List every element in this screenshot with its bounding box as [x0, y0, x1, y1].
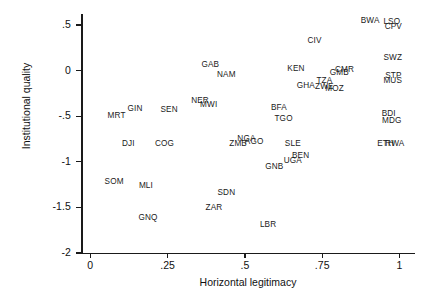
- x-tick-mark: [399, 253, 400, 258]
- data-point-label: MDG: [382, 116, 402, 125]
- data-point-label: TGO: [274, 113, 292, 122]
- data-point-label: BWA: [361, 15, 380, 24]
- data-point-label: SLE: [285, 138, 301, 147]
- data-point-label: SOM: [105, 177, 124, 186]
- y-tick-label: -2: [37, 246, 71, 258]
- data-point-label: RWA: [385, 138, 404, 147]
- x-tick-mark: [322, 253, 323, 258]
- y-axis-title: Institutional quality: [20, 26, 32, 186]
- scatter-plot-figure: Institutional quality .50-.5-1-1.5-2 0.2…: [0, 0, 436, 300]
- y-tick-label: -1.5: [37, 200, 71, 212]
- x-tick-label: 1: [380, 259, 420, 271]
- data-point-label: SDN: [217, 188, 235, 197]
- x-tick-mark: [90, 253, 91, 258]
- data-point-label: UGA: [284, 156, 302, 165]
- data-point-label: MRT: [108, 111, 126, 120]
- data-point-label: GHA: [297, 81, 315, 90]
- data-point-label: AGO: [245, 137, 264, 146]
- data-point-label: SWZ: [383, 52, 402, 61]
- data-point-label: MLI: [139, 180, 153, 189]
- data-point-label: ZMB: [229, 138, 247, 147]
- data-point-label: GAB: [201, 59, 219, 68]
- y-tick-label: 0: [37, 64, 71, 76]
- x-tick-mark: [244, 253, 245, 258]
- data-point-label: GNB: [265, 162, 283, 171]
- x-tick-label: .5: [225, 259, 265, 271]
- x-axis-title: Horizontal legitimacy: [81, 276, 415, 288]
- y-tick-label: -.5: [37, 109, 71, 121]
- data-point-label: GMB: [330, 67, 349, 76]
- data-point-label: COG: [155, 138, 174, 147]
- data-point-label: MWI: [200, 99, 217, 108]
- x-tick-mark: [167, 253, 168, 258]
- data-point-label: CPV: [385, 21, 402, 30]
- data-point-label: GIN: [128, 104, 143, 113]
- x-tick-label: .25: [148, 259, 188, 271]
- data-point-label: MUS: [383, 76, 402, 85]
- data-point-label: DJI: [122, 138, 135, 147]
- x-tick-label: .75: [302, 259, 342, 271]
- data-point-label: MOZ: [325, 83, 344, 92]
- data-point-label: SEN: [160, 104, 177, 113]
- data-point-label: ZAR: [206, 203, 223, 212]
- data-point-label: LBR: [260, 219, 276, 228]
- data-point-label: BFA: [271, 102, 287, 111]
- y-tick-label: .5: [37, 18, 71, 30]
- data-point-label: CIV: [307, 35, 321, 44]
- x-tick-label: 0: [70, 259, 110, 271]
- y-tick-label: -1: [37, 155, 71, 167]
- data-point-label: KEN: [287, 63, 304, 72]
- data-point-label: GNQ: [139, 212, 158, 221]
- plot-data-area: BWALSOCPVCIVSWZGABKENCMRGMBNAMSTPTZAMUSG…: [81, 14, 415, 253]
- data-point-label: NAM: [217, 70, 236, 79]
